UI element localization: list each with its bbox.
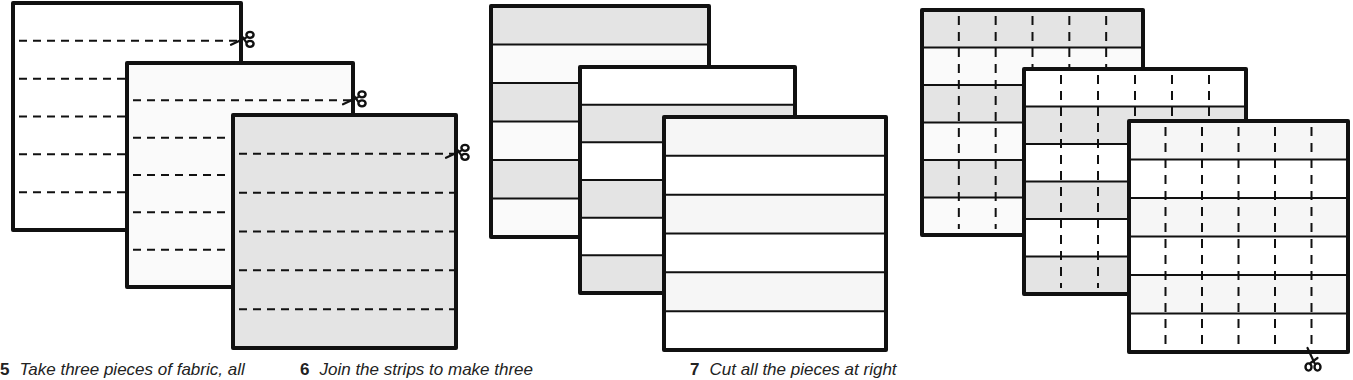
step-5-illustration bbox=[13, 3, 469, 348]
step-7-number: 7 bbox=[690, 360, 699, 379]
step-7-text: Cut all the pieces at right bbox=[709, 360, 896, 379]
step-5-fabric-panel-3 bbox=[233, 115, 469, 348]
fabric-strip bbox=[580, 67, 795, 105]
step-6-caption: 6Join the strips to make three bbox=[300, 360, 533, 380]
step-6-illustration bbox=[491, 6, 886, 351]
fabric-strip bbox=[664, 272, 886, 311]
fabric-strip bbox=[664, 156, 886, 195]
step-5-text: Take three pieces of fabric, all bbox=[19, 360, 244, 379]
fabric-strip bbox=[1024, 69, 1246, 107]
fabric-strip bbox=[1129, 121, 1348, 160]
step-5-number: 5 bbox=[0, 360, 9, 379]
step-7-fabric-panel-3 bbox=[1129, 121, 1348, 371]
fabric-strip bbox=[664, 311, 886, 350]
step-6-text: Join the strips to make three bbox=[319, 360, 533, 379]
step-7-caption: 7Cut all the pieces at right bbox=[690, 360, 897, 380]
fabric-strip bbox=[664, 195, 886, 234]
fabric-strip bbox=[922, 10, 1143, 48]
step-7-illustration bbox=[922, 10, 1348, 371]
fabric-strip bbox=[491, 6, 709, 45]
fabric-strip bbox=[664, 234, 886, 273]
step-5-caption: 5Take three pieces of fabric, all bbox=[0, 360, 245, 380]
step-6-number: 6 bbox=[300, 360, 309, 379]
step-6-fabric-panel-3 bbox=[664, 117, 886, 351]
fabric-strip bbox=[664, 117, 886, 156]
